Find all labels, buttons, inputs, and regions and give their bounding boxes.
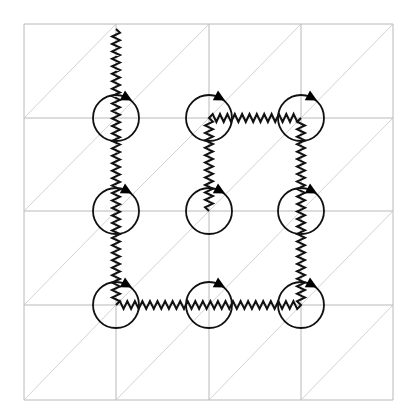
diagonal-line: [116, 118, 209, 211]
diagonal-line: [301, 305, 393, 400]
diagonal-line: [116, 305, 209, 400]
diagonal-line: [301, 24, 393, 118]
diagonal-line: [209, 118, 301, 211]
diagonal-line: [209, 305, 301, 400]
diagonal-line: [116, 211, 209, 305]
diagonal-line: [209, 24, 301, 118]
diagonal-line: [24, 24, 116, 118]
diagonal-line: [209, 211, 301, 305]
diagonal-line: [24, 211, 116, 305]
diagonal-line: [24, 118, 116, 211]
diagonal-line: [116, 24, 209, 118]
diagonal-line: [24, 305, 116, 400]
diagonal-line: [301, 118, 393, 211]
diagonal-line: [301, 211, 393, 305]
lattice-diagram: [0, 0, 409, 414]
